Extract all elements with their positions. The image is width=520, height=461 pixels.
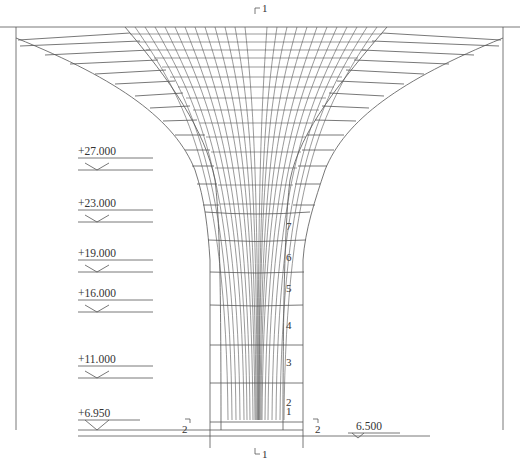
floor-number-7: 7 <box>286 221 292 232</box>
elevation-label-23: +23.000 <box>78 198 116 210</box>
tree-column-section-drawing <box>0 0 520 461</box>
section-label-1-bottom: 1 <box>262 449 268 460</box>
floor-number-3: 3 <box>286 357 292 368</box>
fan-grid-curves <box>135 27 377 420</box>
canopy-ribs-right <box>293 33 501 205</box>
floor-number-6: 6 <box>286 252 292 263</box>
outer-canopy-right <box>303 38 503 260</box>
floor-number-1: 1 <box>286 406 292 417</box>
elevation-label-16: +16.000 <box>78 288 116 300</box>
floor-number-4: 4 <box>286 320 292 331</box>
elevation-markers <box>78 158 400 438</box>
inner-canopy-right <box>283 27 387 430</box>
fan-grid-ribs <box>130 34 382 204</box>
elevation-label-6950: +6.950 <box>78 408 110 420</box>
elevation-label-27: +27.000 <box>78 146 116 158</box>
section-mark-1-top <box>255 8 260 14</box>
section-label-1-top: 1 <box>262 3 268 14</box>
section-label-2-right: 2 <box>315 424 321 435</box>
elevation-label-19: +19.000 <box>78 248 116 260</box>
ground-elevation-label: 6.500 <box>356 421 382 433</box>
section-label-2-left: 2 <box>182 424 188 435</box>
inner-canopy-left <box>125 27 221 430</box>
elevation-label-11: +11.000 <box>78 354 116 366</box>
floor-number-5: 5 <box>286 283 292 294</box>
section-mark-1-bottom <box>255 448 260 454</box>
